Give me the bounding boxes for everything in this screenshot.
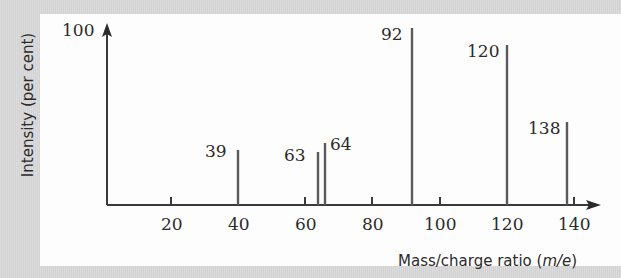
- peak-label-64: 64: [330, 134, 352, 154]
- x-axis-title-italic: m/e: [542, 252, 571, 270]
- x-axis-title-tail: ): [571, 252, 577, 270]
- peak-label-138: 138: [528, 118, 560, 138]
- peak-label-63: 63: [284, 145, 306, 165]
- mass-spectrum-plot: [0, 0, 621, 278]
- y-axis-title: Intensity (per cent): [19, 25, 37, 185]
- peak-label-92: 92: [381, 24, 403, 44]
- x-axis-tick-label-120: 120: [491, 214, 523, 234]
- figure-frame: 100 Intensity (per cent) 20 40 60 80 100…: [0, 0, 621, 278]
- x-axis-tick-label-100: 100: [424, 214, 456, 234]
- spectrum-peaks: [238, 28, 567, 205]
- peak-label-39: 39: [205, 141, 227, 161]
- x-axis-tick-label-60: 60: [295, 214, 317, 234]
- x-axis-tick-label-20: 20: [161, 214, 183, 234]
- x-axis-title-plain: Mass/charge ratio (: [398, 252, 542, 270]
- peak-label-120: 120: [467, 41, 499, 61]
- x-axis-ticks: [171, 197, 574, 205]
- x-axis-title: Mass/charge ratio (m/e): [398, 252, 577, 270]
- y-axis-tick-label-100: 100: [62, 20, 94, 40]
- x-axis-tick-label-40: 40: [228, 214, 250, 234]
- x-axis-tick-label-80: 80: [362, 214, 384, 234]
- x-axis-tick-label-140: 140: [558, 214, 590, 234]
